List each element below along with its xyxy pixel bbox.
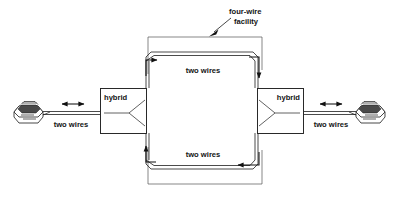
four-wire-facility-annotation: four-wire facility: [209, 7, 262, 37]
left-local-loop-label: two wires: [54, 120, 89, 129]
arrow-bottom-right-left: [238, 152, 259, 165]
arrow-bottom-left-up: [146, 146, 156, 162]
four-wire-facility-diagram: four-wire facility: [0, 0, 399, 213]
four-wire-facility-label-line2: facility: [234, 17, 259, 26]
four-wire-facility-label-line1: four-wire: [229, 7, 262, 16]
right-local-loop: two wires: [304, 104, 360, 129]
left-local-loop: two wires: [43, 104, 100, 129]
top-pair-label: two wires: [186, 66, 221, 75]
hybrid-left-label: hybrid: [104, 93, 128, 102]
hybrid-right[interactable]: hybrid: [258, 89, 304, 134]
bottom-pair-label: two wires: [186, 150, 221, 159]
right-local-loop-label: two wires: [314, 120, 349, 129]
telephone-left-icon: [14, 102, 50, 124]
diagram-canvas: four-wire facility: [0, 0, 399, 213]
hybrid-left[interactable]: hybrid: [101, 89, 147, 134]
hybrid-right-label: hybrid: [277, 93, 301, 102]
four-wire-facility-boundary: [148, 37, 262, 184]
telephone-right-icon: [349, 102, 385, 124]
